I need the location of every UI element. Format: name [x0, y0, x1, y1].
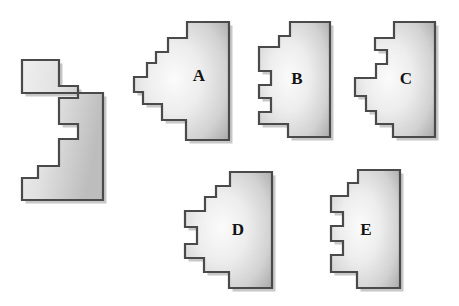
figures-svg: ABCDE: [0, 0, 459, 306]
figure-label-E: E: [360, 220, 371, 239]
figure-B[interactable]: B: [259, 22, 334, 141]
shape-puzzle-canvas: ABCDE: [0, 0, 459, 306]
figure-reference[interactable]: [22, 60, 107, 204]
figure-label-D: D: [232, 220, 244, 239]
figure-E[interactable]: E: [331, 170, 404, 292]
figure-label-A: A: [193, 66, 206, 85]
figure-outline-D[interactable]: [185, 172, 272, 288]
figure-A[interactable]: A: [134, 22, 233, 144]
figure-label-B: B: [291, 69, 302, 88]
figure-C[interactable]: C: [355, 22, 439, 141]
figure-outline-C[interactable]: [355, 22, 435, 137]
figure-label-C: C: [400, 69, 412, 88]
figure-D[interactable]: D: [185, 172, 276, 292]
